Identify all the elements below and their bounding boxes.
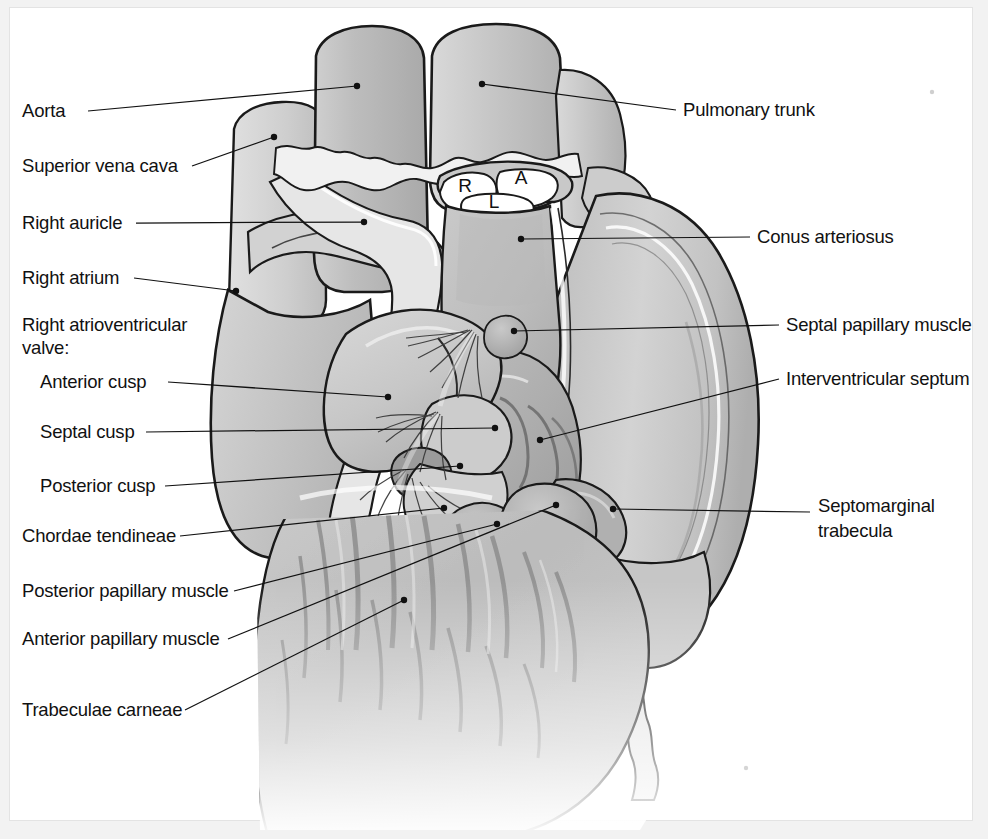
label-right-atrium: Right atrium xyxy=(22,267,119,288)
label-septomarginal-2: trabecula xyxy=(818,520,893,541)
leader-right-atrium xyxy=(134,278,236,291)
label-right-auricle: Right auricle xyxy=(22,212,122,233)
label-posterior-papillary-muscle: Posterior papillary muscle xyxy=(22,580,229,601)
label-trabeculae-carneae: Trabeculae carneae xyxy=(22,699,182,720)
leader-anterior-cusp-endpoint xyxy=(385,394,391,400)
leader-pulmonary-trunk-endpoint xyxy=(479,81,485,87)
leader-anterior-papillary-endpoint xyxy=(553,502,559,508)
leader-septal-papillary-endpoint xyxy=(511,328,517,334)
leader-chordae-tendineae-endpoint xyxy=(441,505,447,511)
label-interventricular-septum: Interventricular septum xyxy=(786,368,970,389)
leader-interventricular-endpoint xyxy=(537,437,543,443)
leader-septomarginal-endpoint xyxy=(610,506,616,512)
heart-anatomy-illustration: AortaSuperior vena cavaRight auricleRigh… xyxy=(0,0,988,839)
leader-trabeculae-carneae-endpoint xyxy=(401,597,407,603)
label-posterior-cusp: Posterior cusp xyxy=(40,475,155,496)
leader-superior-vena-cava-endpoint xyxy=(271,134,277,140)
label-superior-vena-cava: Superior vena cava xyxy=(22,155,179,176)
pulmonary-cusp-letter-A: A xyxy=(515,167,528,188)
leader-conus-arteriosus-endpoint xyxy=(518,236,524,242)
texture-speck-1 xyxy=(930,90,934,94)
label-right-av-valve-1: Right atrioventricular xyxy=(22,314,187,335)
ventricle-bottom-fade xyxy=(230,580,750,839)
label-conus-arteriosus: Conus arteriosus xyxy=(757,226,894,247)
texture-speck-2 xyxy=(744,766,748,770)
leader-aorta-endpoint xyxy=(354,83,360,89)
leader-posterior-papillary-endpoint xyxy=(494,521,500,527)
leader-posterior-cusp-endpoint xyxy=(457,463,463,469)
label-septal-papillary-muscle: Septal papillary muscle xyxy=(786,314,972,335)
label-anterior-cusp: Anterior cusp xyxy=(40,371,146,392)
leader-septal-cusp-endpoint xyxy=(492,425,498,431)
left-label-column: AortaSuperior vena cavaRight auricleRigh… xyxy=(22,100,229,720)
leader-right-auricle-endpoint xyxy=(361,219,367,225)
septal-papillary-muscle-shape xyxy=(484,316,527,359)
pulmonary-cusp-letter-R: R xyxy=(458,175,472,196)
label-right-av-valve-2: valve: xyxy=(22,337,69,358)
label-chordae-tendineae: Chordae tendineae xyxy=(22,525,176,546)
label-pulmonary-trunk: Pulmonary trunk xyxy=(683,99,816,120)
pulmonary-cusp-letter-L: L xyxy=(489,191,500,212)
label-septomarginal-1: Septomarginal xyxy=(818,495,935,516)
label-septal-cusp: Septal cusp xyxy=(40,421,134,442)
label-aorta: Aorta xyxy=(22,100,66,121)
leader-right-atrium-endpoint xyxy=(233,288,239,294)
label-anterior-papillary-muscle: Anterior papillary muscle xyxy=(22,628,220,649)
figure-page: AortaSuperior vena cavaRight auricleRigh… xyxy=(0,0,988,839)
conus-endocardium-shade xyxy=(456,214,546,306)
